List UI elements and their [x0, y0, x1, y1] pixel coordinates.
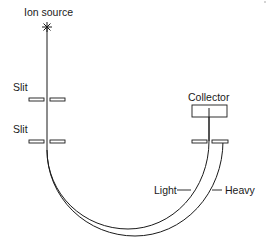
slit-upper-label: Slit [13, 81, 28, 93]
corner-mark [264, 1, 265, 2]
mass-spectrometer-diagram: Ion source Slit Slit Collector Light Hea… [0, 0, 266, 241]
collector-slit-left-plate [192, 140, 207, 143]
slit-upper-left-plate [29, 98, 44, 101]
collector-label: Collector [188, 91, 230, 103]
light-label: Light [154, 184, 177, 196]
slit-lower-right-plate [50, 140, 65, 143]
slit-lower-label: Slit [13, 123, 28, 135]
ion-source-label: Ion source [24, 6, 73, 18]
collector-slit-right-plate [212, 140, 228, 143]
heavy-label: Heavy [225, 184, 256, 196]
light-ion-path [47, 109, 209, 229]
slit-upper-right-plate [50, 98, 65, 101]
slit-lower-left-plate [29, 140, 44, 143]
